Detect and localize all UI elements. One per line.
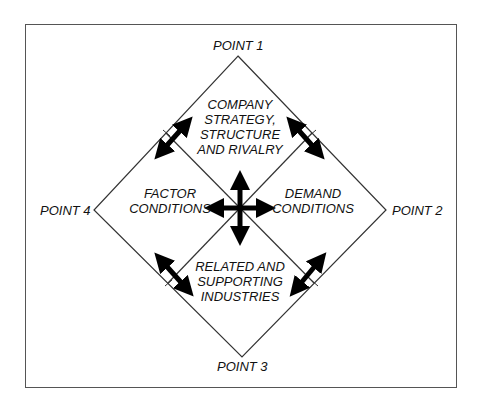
double-headed-arrow-icon-ne (293, 124, 318, 152)
point-4-label: POINT 4 (40, 203, 91, 218)
region-company-strategy: COMPANY STRATEGY, STRUCTURE AND RIVALRY (190, 97, 290, 157)
point-2-label: POINT 2 (392, 203, 443, 218)
region-related-supporting-industries: RELATED AND SUPPORTING INDUSTRIES (190, 259, 290, 304)
double-headed-arrow-icon-nw (161, 124, 186, 152)
region-demand-conditions: DEMAND CONDITIONS (268, 186, 358, 216)
double-headed-arrow-icon-sw (161, 260, 187, 289)
point-1-label: POINT 1 (213, 38, 264, 53)
region-factor-conditions: FACTOR CONDITIONS (125, 186, 215, 216)
point-3-label: POINT 3 (217, 359, 268, 374)
